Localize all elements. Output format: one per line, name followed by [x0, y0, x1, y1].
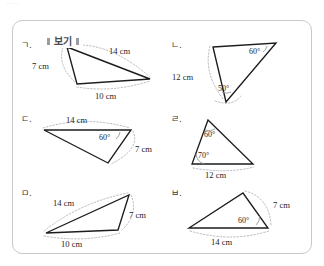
triangle-b-label-14cm: 14 cm	[211, 237, 233, 247]
figure-cell-triangle-d: ㄷ. 14 cm 60° 7 cm	[13, 107, 163, 181]
figure-label-triangle-n: ㄴ.	[171, 41, 182, 50]
triangle-m-diagram: 14 cm 7 cm 10 cm	[13, 181, 163, 255]
figure-cell-triangle-g: ㄱ. 14 cm 7 cm 10 cm	[13, 33, 163, 107]
figure-label-triangle-g: ㄱ.	[21, 41, 32, 50]
triangle-b-label-60deg: 60°	[238, 216, 249, 225]
box-title: 보기	[43, 35, 83, 48]
triangle-n-diagram: 60° 12 cm 50°	[163, 33, 313, 107]
figure-cell-triangle-r: ㄹ. 60° 70° 12 cm	[163, 107, 313, 181]
triangle-d-diagram: 14 cm 60° 7 cm	[13, 107, 163, 181]
box-title-label: 보기	[54, 37, 72, 47]
figure-label-triangle-r: ㄹ.	[171, 115, 182, 124]
title-mark-left-icon	[47, 38, 50, 45]
angle-arc-60	[116, 132, 120, 139]
figure-label-triangle-d: ㄷ.	[21, 115, 32, 124]
figure-cell-triangle-b: ㅂ. 7 cm 60° 14 cm	[163, 181, 313, 255]
triangle-g-label-7cm: 7 cm	[32, 61, 49, 71]
guide-arc-right	[111, 131, 135, 164]
triangle-g-label-10cm: 10 cm	[95, 91, 117, 101]
triangle-d-label-60deg: 60°	[99, 133, 110, 142]
triangle-d-outline	[44, 130, 131, 163]
triangle-d-label-14cm: 14 cm	[66, 115, 88, 125]
triangle-g-label-14cm: 14 cm	[109, 46, 131, 56]
triangle-n-label-50deg: 50°	[218, 84, 229, 93]
angle-arc-60	[263, 46, 267, 52]
triangle-r-label-70deg: 70°	[198, 151, 209, 160]
guide-arc-bottom	[44, 233, 120, 239]
triangle-r-diagram: 60° 70° 12 cm	[163, 107, 313, 181]
figure-cell-triangle-n: ㄴ. 60° 12 cm 50°	[163, 33, 313, 107]
guide-arc-bottom	[77, 81, 150, 89]
triangle-b-diagram: 7 cm 60° 14 cm	[163, 181, 313, 255]
figure-label-triangle-b: ㅂ.	[171, 189, 182, 198]
triangle-r-label-12cm: 12 cm	[205, 170, 227, 180]
figure-grid: ㄱ. 14 cm 7 cm 10 cm ㄴ.	[13, 33, 313, 255]
triangle-d-label-7cm: 7 cm	[135, 144, 152, 154]
triangle-b-label-7cm: 7 cm	[273, 200, 290, 210]
triangle-b-outline	[189, 193, 268, 228]
guide-arc-top	[66, 45, 150, 77]
title-mark-right-icon	[76, 38, 79, 45]
triangle-r-label-60deg: 60°	[204, 130, 215, 139]
triangle-m-label-7cm: 7 cm	[129, 210, 146, 220]
angle-arc-60	[256, 216, 260, 225]
triangle-n-label-12cm: 12 cm	[172, 72, 194, 82]
triangle-g-diagram: 14 cm 7 cm 10 cm	[13, 33, 163, 107]
page-top-scrap-text: ·····	[6, 0, 20, 8]
triangle-n-label-60deg: 60°	[249, 47, 260, 56]
triangle-m-label-14cm: 14 cm	[53, 198, 75, 208]
triangle-n-outline	[213, 43, 276, 102]
example-box: 보기 ㄱ. 14 cm 7 cm 10 cm ㄴ.	[12, 20, 312, 254]
figure-label-triangle-m: ㅁ.	[21, 189, 32, 198]
figure-cell-triangle-m: ㅁ. 14 cm 7 cm 10 cm	[13, 181, 163, 255]
triangle-m-label-10cm: 10 cm	[61, 239, 83, 249]
